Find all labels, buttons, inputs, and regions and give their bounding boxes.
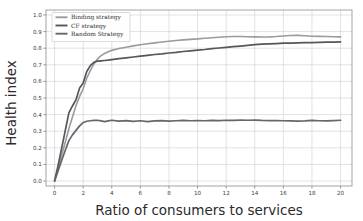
x-tick-label: 18 — [308, 190, 316, 196]
x-tick-label: 20 — [337, 190, 345, 196]
x-tick-label: 0 — [53, 190, 57, 196]
y-tick-label: 1.0 — [33, 12, 42, 18]
x-axis-label: Ratio of consumers to services — [95, 202, 303, 218]
x-tick-label: 8 — [167, 190, 171, 196]
y-tick-label: 0.5 — [33, 95, 42, 101]
y-tick-label: 0.9 — [33, 29, 42, 35]
y-tick-label: 0.2 — [33, 145, 42, 151]
x-tick-label: 16 — [280, 190, 288, 196]
x-tick-label: 12 — [223, 190, 230, 196]
x-tick-label: 14 — [251, 190, 259, 196]
y-tick-label: 0.3 — [33, 128, 42, 134]
chart-legend: Binding strategyCF strategyRandom Strate… — [52, 13, 130, 42]
x-tick-label: 6 — [139, 190, 143, 196]
y-tick-label: 0.8 — [33, 45, 42, 51]
line-chart: 0.00.10.20.30.40.50.60.70.80.91.0 024681… — [0, 0, 363, 221]
y-tick-label: 0.4 — [33, 112, 42, 118]
y-axis-label: Health index — [3, 60, 19, 146]
x-tick-label: 2 — [81, 190, 85, 196]
legend-label: Binding strategy — [71, 14, 121, 21]
y-tick-label: 0.6 — [33, 78, 42, 84]
x-tick-label: 10 — [194, 190, 202, 196]
legend-label: CF strategy — [71, 23, 107, 30]
y-tick-label: 0.7 — [33, 62, 42, 68]
chart-figure: 0.00.10.20.30.40.50.60.70.80.91.0 024681… — [0, 0, 363, 221]
x-tick-label: 4 — [110, 190, 114, 196]
legend-label: Random Strategy — [71, 31, 124, 38]
y-tick-label: 0.0 — [33, 178, 42, 184]
y-tick-label: 0.1 — [33, 161, 42, 167]
